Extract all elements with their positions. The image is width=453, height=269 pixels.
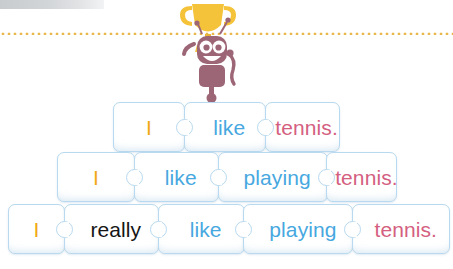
- puzzle-piece[interactable]: playing: [243, 204, 353, 254]
- sentence-row-3: Ireallylikeplayingtennis.: [8, 204, 449, 254]
- puzzle-piece-label: playing: [235, 167, 311, 188]
- puzzle-piece[interactable]: like: [134, 152, 219, 202]
- puzzle-piece-label: like: [156, 167, 197, 188]
- sentence-row-1: Iliketennis.: [113, 102, 338, 152]
- puzzle-piece-label: I: [34, 219, 40, 240]
- puzzle-piece[interactable]: I: [57, 152, 135, 202]
- puzzle-piece[interactable]: like: [158, 204, 245, 254]
- decorative-grey-bar: [0, 0, 104, 9]
- puzzle-piece-label: I: [93, 167, 99, 188]
- puzzle-piece[interactable]: tennis.: [352, 204, 450, 254]
- puzzle-piece-label: I: [146, 117, 152, 138]
- puzzle-piece-label: like: [204, 117, 245, 138]
- worksheet-canvas: Iliketennis. Ilikeplayingtennis. Ireally…: [0, 0, 453, 269]
- puzzle-piece[interactable]: tennis.: [265, 102, 340, 152]
- puzzle-piece[interactable]: really: [64, 204, 159, 254]
- puzzle-piece-label: really: [81, 219, 141, 240]
- puzzle-piece-label: tennis.: [365, 219, 437, 240]
- puzzle-piece-label: like: [181, 219, 222, 240]
- puzzle-piece[interactable]: tennis.: [326, 152, 397, 202]
- sentence-row-2: Ilikeplayingtennis.: [57, 152, 396, 202]
- puzzle-piece[interactable]: playing: [218, 152, 328, 202]
- puzzle-piece-label: tennis.: [266, 117, 338, 138]
- puzzle-piece[interactable]: like: [184, 102, 266, 152]
- puzzle-piece-label: playing: [260, 219, 336, 240]
- puzzle-piece[interactable]: I: [113, 102, 185, 152]
- robot-with-trophy-illustration: [172, 0, 250, 104]
- puzzle-piece-label: tennis.: [326, 167, 398, 188]
